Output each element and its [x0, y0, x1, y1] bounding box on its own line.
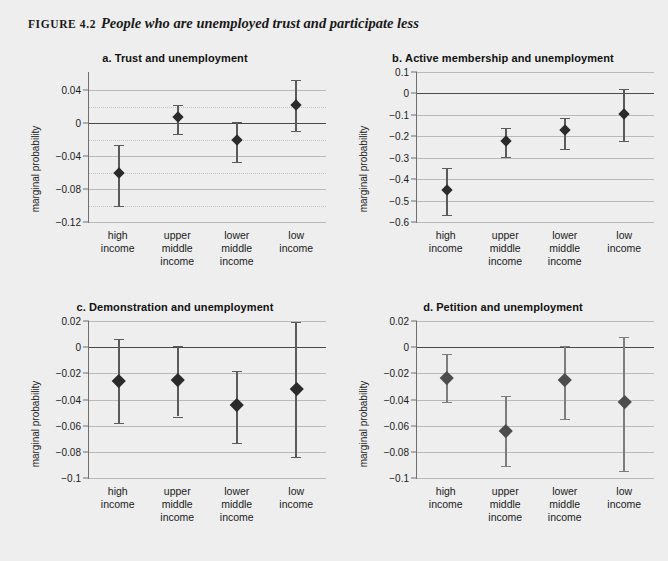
data-point-marker[interactable] [440, 371, 453, 384]
x-axis-category-line: low [587, 229, 661, 242]
data-point-marker[interactable] [500, 136, 511, 147]
y-tick-label: −0.1 [23, 473, 81, 484]
x-axis-category-line: income [200, 511, 274, 524]
y-tick-label: −0.08 [23, 446, 81, 457]
data-point-marker[interactable] [172, 112, 183, 123]
plot-area-d: 0.020−0.02−0.04−0.06−0.08−0.1 [416, 321, 654, 479]
panel-title-c: c.Demonstration and unemployment [16, 301, 334, 313]
data-point-marker[interactable] [112, 374, 125, 387]
y-tick-label: −0.4 [351, 174, 409, 185]
panel-grid: a.Trust and unemployment marginal probab… [0, 40, 668, 560]
y-tick-label: −0.1 [351, 109, 409, 120]
series-points [417, 321, 654, 478]
series-points [417, 72, 654, 222]
y-axis-label-b: marginal probability [358, 104, 369, 234]
error-bar-cap-lower [560, 419, 570, 420]
error-bar-cap-upper [232, 371, 242, 372]
y-tick-label: −0.6 [351, 217, 409, 228]
y-tick-label: −0.04 [23, 394, 81, 405]
x-axis-category-line: low [259, 229, 333, 242]
x-axis-labels-b: highincomeuppermiddleincomelowermiddlein… [416, 225, 654, 291]
y-tick-label: −0.5 [351, 195, 409, 206]
error-bar-cap-upper [291, 80, 301, 81]
error-bar-cap-upper [560, 118, 570, 119]
error-bar-cap-upper [291, 322, 301, 323]
y-tick-label: 0 [23, 342, 81, 353]
error-bar-cap-lower [501, 466, 511, 467]
y-tick-label: −0.3 [351, 152, 409, 163]
gridline [417, 478, 654, 479]
x-axis-category-label: lowincome [259, 485, 333, 511]
panel-letter-c: c. [77, 301, 86, 313]
error-bar-cap-lower [173, 417, 183, 418]
y-tick-label: −0.12 [23, 217, 81, 228]
y-tick-label: −0.08 [351, 446, 409, 457]
x-axis-category-label: lowincome [587, 229, 661, 255]
gridline [417, 222, 654, 223]
x-axis-category-line: low [259, 485, 333, 498]
error-bar-cap-upper [173, 346, 183, 347]
figure-title: People who are unemployed trust and part… [101, 15, 419, 31]
plot-area-a: 0.040−0.04−0.08−0.12 [88, 72, 326, 223]
y-tick-label: −0.02 [23, 368, 81, 379]
x-axis-category-line: income [259, 242, 333, 255]
error-bar-cap-upper [619, 89, 629, 90]
error-bar-cap-lower [619, 141, 629, 142]
data-point-marker[interactable] [559, 124, 570, 135]
error-bar-cap-upper [501, 396, 511, 397]
data-point-marker[interactable] [171, 373, 184, 386]
y-tick-label: −0.1 [351, 473, 409, 484]
data-point-marker[interactable] [230, 398, 243, 411]
data-point-marker[interactable] [113, 167, 124, 178]
error-bar-cap-upper [114, 339, 124, 340]
panel-letter-b: b. [392, 52, 402, 64]
error-bar-cap-lower [560, 149, 570, 150]
gridline [89, 222, 326, 223]
chart-panel-d: d.Petition and unemployment marginal pro… [344, 295, 662, 553]
data-point-marker[interactable] [290, 382, 303, 395]
y-tick-label: −0.02 [351, 368, 409, 379]
data-point-marker[interactable] [291, 99, 302, 110]
x-axis-category-line: income [259, 498, 333, 511]
series-points [89, 72, 326, 222]
error-bar-cap-upper [619, 337, 629, 338]
data-point-marker[interactable] [618, 395, 631, 408]
y-tick-label: 0.04 [23, 85, 81, 96]
y-tick-label: 0 [351, 342, 409, 353]
data-point-marker[interactable] [619, 109, 630, 120]
x-axis-category-line: income [200, 255, 274, 268]
y-tick-label: 0 [351, 88, 409, 99]
series-points [89, 321, 326, 478]
panel-title-text-c: Demonstration and unemployment [89, 301, 274, 313]
y-tick-label: 0.1 [351, 67, 409, 78]
error-bar-cap-lower [114, 206, 124, 207]
error-bar-cap-upper [173, 105, 183, 106]
panel-letter-d: d. [423, 301, 433, 313]
error-bar-cap-lower [291, 131, 301, 132]
error-bar-cap-lower [114, 423, 124, 424]
figure-number: FIGURE 4.2 [28, 18, 96, 30]
x-axis-labels-c: highincomeuppermiddleincomelowermiddlein… [88, 481, 326, 553]
plot-area-b: 0.10−0.1−0.2−0.3−0.4−0.5−0.6 [416, 72, 654, 223]
error-bar-cap-upper [501, 128, 511, 129]
x-axis-category-line: income [587, 498, 661, 511]
error-bar-cap-upper [560, 346, 570, 347]
error-bar-cap-lower [232, 162, 242, 163]
x-axis-category-line: income [528, 255, 602, 268]
chart-panel-a: a.Trust and unemployment marginal probab… [16, 46, 334, 291]
data-point-marker[interactable] [231, 135, 242, 146]
data-point-marker[interactable] [558, 373, 571, 386]
y-tick-label: −0.06 [351, 420, 409, 431]
plot-area-c: 0.020−0.02−0.04−0.06−0.08−0.1 [88, 321, 326, 479]
y-tick-label: 0 [23, 118, 81, 129]
x-axis-category-line: income [528, 511, 602, 524]
data-point-marker[interactable] [499, 424, 512, 437]
panel-title-text-d: Petition and unemployment [436, 301, 583, 313]
data-point-marker[interactable] [441, 185, 452, 196]
panel-letter-a: a. [102, 52, 111, 64]
error-bar-cap-upper [114, 145, 124, 146]
x-axis-category-line: income [587, 242, 661, 255]
y-tick-label: −0.04 [23, 151, 81, 162]
error-bar-cap-lower [232, 443, 242, 444]
y-tick-label: 0.02 [351, 316, 409, 327]
